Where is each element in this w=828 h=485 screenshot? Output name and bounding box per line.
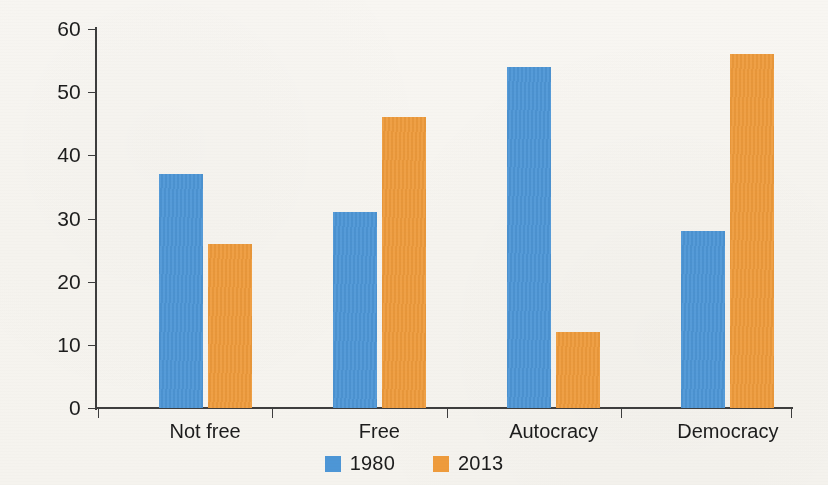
blue-square-icon: [325, 456, 341, 472]
y-axis-tick-label: 10: [35, 333, 81, 357]
bar: [208, 244, 252, 408]
x-axis-tick: [447, 409, 448, 418]
x-axis-tick: [98, 409, 99, 418]
legend-item[interactable]: 2013: [433, 452, 503, 475]
x-axis-category-label: Free: [359, 420, 400, 443]
x-axis-category-label: Democracy: [677, 420, 778, 443]
bar: [159, 174, 203, 408]
x-axis-tick: [272, 409, 273, 418]
y-axis-tick: [88, 29, 96, 30]
y-axis-tick-label: 0: [35, 396, 81, 420]
y-axis-tick: [88, 92, 96, 93]
y-axis-tick: [88, 282, 96, 283]
y-axis-tick-label: 60: [35, 17, 81, 41]
bar: [382, 117, 426, 408]
y-axis-tick: [88, 219, 96, 220]
y-axis-tick-label: 20: [35, 270, 81, 294]
x-axis-category-label: Autocracy: [509, 420, 598, 443]
orange-square-icon: [433, 456, 449, 472]
y-axis-tick: [88, 155, 96, 156]
x-axis-tick: [621, 409, 622, 418]
x-axis-category-label: Not free: [170, 420, 241, 443]
y-axis-tick: [88, 345, 96, 346]
y-axis-tick: [88, 408, 96, 409]
chart-legend: 19802013: [0, 452, 828, 475]
bar-chart: Percent 0102030405060 Not freeFreeAutocr…: [0, 0, 828, 485]
bar: [556, 332, 600, 408]
legend-label: 1980: [350, 452, 395, 475]
bar: [507, 67, 551, 408]
plot-area: [96, 29, 793, 408]
y-axis-tick-label: 30: [35, 207, 81, 231]
bar: [730, 54, 774, 408]
y-axis-tick-label: 50: [35, 80, 81, 104]
bar: [681, 231, 725, 408]
legend-item[interactable]: 1980: [325, 452, 395, 475]
bar: [333, 212, 377, 408]
x-axis-tick: [791, 409, 792, 418]
y-axis-tick-label: 40: [35, 143, 81, 167]
legend-label: 2013: [458, 452, 503, 475]
